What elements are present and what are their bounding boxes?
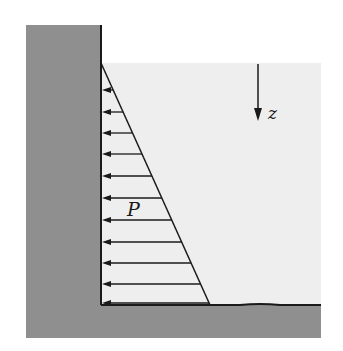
depth-axis-label: z — [267, 103, 278, 123]
ground — [26, 305, 321, 338]
wall — [26, 25, 101, 338]
water-region — [101, 63, 321, 305]
hydrostatic-diagram: z P — [0, 0, 343, 351]
ground-surface-line — [101, 304, 321, 305]
pressure-label: P — [126, 198, 141, 220]
